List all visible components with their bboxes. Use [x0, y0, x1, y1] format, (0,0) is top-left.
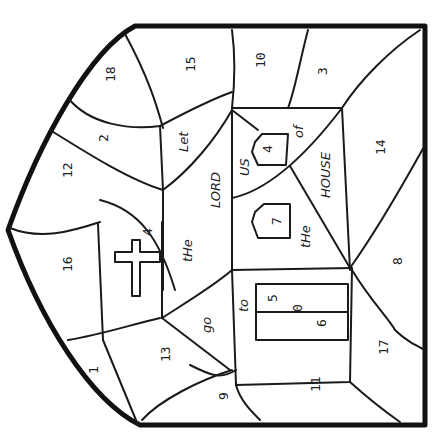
region-number: 6 — [314, 319, 329, 327]
shield-outline — [8, 26, 425, 425]
cross-icon — [115, 240, 160, 296]
word-to: to — [236, 299, 251, 312]
region-lines — [10, 30, 425, 425]
region-number: 3 — [315, 67, 330, 75]
region-number: 8 — [390, 257, 405, 265]
word-house: HOUSE — [318, 151, 333, 198]
region-number: 14 — [373, 139, 388, 155]
region-number: 0 — [290, 304, 305, 312]
region-number: 16 — [60, 256, 75, 272]
region-number: 4 — [140, 228, 155, 236]
region-number: 2 — [96, 134, 111, 142]
word-the: tHe — [298, 225, 313, 248]
region-number: 13 — [158, 346, 173, 362]
region-number: 4 — [260, 145, 275, 153]
word-go: go — [199, 317, 214, 333]
word-of: of — [291, 123, 306, 138]
region-number: 7 — [269, 217, 284, 225]
word-us: US — [237, 158, 252, 176]
region-number: 12 — [60, 162, 75, 178]
region-number: 5 — [265, 294, 280, 302]
coloring-page: 18 15 2 12 10 3 4 14 16 4 7 8 1 13 9 5 0… — [0, 0, 434, 444]
region-number: 10 — [253, 52, 268, 68]
word-lord: LORD — [208, 172, 223, 208]
region-number: 1 — [86, 366, 101, 374]
word-let: Let — [176, 131, 191, 152]
region-number: 11 — [308, 376, 323, 392]
word-the: tHe — [180, 239, 195, 262]
region-number: 9 — [216, 392, 231, 400]
region-number: 18 — [103, 66, 118, 82]
region-number: 17 — [376, 339, 391, 355]
region-number: 15 — [183, 56, 198, 72]
